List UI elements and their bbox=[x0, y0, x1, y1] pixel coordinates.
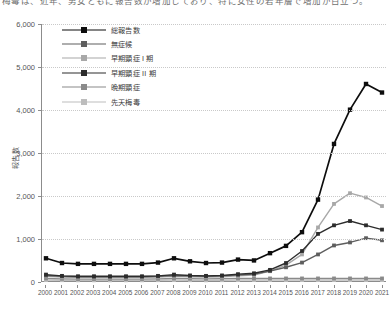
x-axis-tick-mark bbox=[61, 285, 62, 288]
x-axis-tick-label: 2002 bbox=[70, 289, 84, 296]
data-point-marker bbox=[316, 232, 320, 236]
data-point-marker bbox=[124, 274, 128, 278]
chart-legend: 総報告数無症候早期顕症 I 期早期顕症 II 期晩期顕症先天梅毒 bbox=[62, 23, 156, 108]
x-axis-tick-label: 2009 bbox=[182, 289, 196, 296]
y-axis-tick-label: 2,000 bbox=[16, 192, 35, 201]
data-point-marker bbox=[252, 258, 256, 262]
data-point-marker bbox=[268, 277, 272, 281]
data-point-marker bbox=[204, 261, 208, 265]
gridline bbox=[42, 196, 386, 197]
legend-swatch-icon bbox=[62, 68, 106, 78]
chart-screenshot: 梅毒は、近年、男女ともに報告数が増加しており、特に女性の若年層で増加が目立つ。 … bbox=[0, 0, 391, 316]
x-axis-tick-mark bbox=[205, 285, 206, 288]
legend-item-label: 無症候 bbox=[111, 39, 133, 49]
data-point-marker bbox=[252, 271, 256, 275]
data-point-marker bbox=[364, 277, 368, 281]
data-point-marker bbox=[348, 277, 352, 281]
series-2 bbox=[44, 191, 384, 279]
data-point-marker bbox=[364, 82, 368, 86]
data-point-marker bbox=[76, 274, 80, 278]
legend-item-label: 早期顕症 II 期 bbox=[111, 68, 156, 78]
data-point-marker bbox=[284, 244, 288, 248]
data-point-marker bbox=[300, 249, 304, 253]
data-point-marker bbox=[140, 262, 144, 266]
y-axis-tick-label: 6,000 bbox=[16, 20, 35, 29]
x-axis-tick-mark bbox=[382, 285, 383, 288]
data-point-marker bbox=[108, 262, 112, 266]
y-axis-tick-mark bbox=[38, 282, 41, 283]
legend-item-0[interactable]: 総報告数 bbox=[62, 23, 156, 36]
x-axis-tick-mark bbox=[77, 285, 78, 288]
x-axis-tick-mark bbox=[45, 285, 46, 288]
data-point-marker bbox=[332, 142, 336, 146]
data-point-marker bbox=[268, 251, 272, 255]
x-axis-tick-mark bbox=[109, 285, 110, 288]
legend-item-4[interactable]: 晩期顕症 bbox=[62, 81, 156, 94]
data-point-marker bbox=[44, 256, 48, 260]
legend-swatch-icon bbox=[62, 97, 106, 107]
x-axis-tick-label: 2018 bbox=[327, 289, 341, 296]
x-axis-tick-mark bbox=[286, 285, 287, 288]
x-axis-tick-mark bbox=[350, 285, 351, 288]
x-axis-tick-label: 2001 bbox=[54, 289, 68, 296]
legend-item-label: 先天梅毒 bbox=[111, 97, 140, 107]
data-point-marker bbox=[108, 274, 112, 278]
series-line bbox=[46, 221, 382, 276]
data-point-marker bbox=[316, 197, 320, 201]
series-line bbox=[46, 238, 382, 277]
data-point-marker bbox=[284, 261, 288, 265]
data-point-marker bbox=[44, 273, 48, 277]
x-axis-tick-label: 2012 bbox=[230, 289, 244, 296]
data-point-marker bbox=[316, 277, 320, 281]
data-point-marker bbox=[60, 274, 64, 278]
data-point-marker bbox=[172, 256, 176, 260]
legend-swatch-icon bbox=[62, 25, 106, 35]
x-axis-tick-mark bbox=[222, 285, 223, 288]
data-point-marker bbox=[316, 253, 320, 257]
x-axis-tick-mark bbox=[302, 285, 303, 288]
x-axis-tick-label: 2013 bbox=[247, 289, 261, 296]
series-line bbox=[46, 278, 382, 279]
data-point-marker bbox=[140, 274, 144, 278]
data-point-marker bbox=[300, 261, 304, 265]
data-point-marker bbox=[380, 204, 384, 208]
y-axis-tick-label: 1,000 bbox=[16, 235, 35, 244]
series-3 bbox=[44, 219, 384, 278]
data-point-marker bbox=[236, 257, 240, 261]
data-point-marker bbox=[188, 259, 192, 263]
legend-swatch-icon bbox=[62, 39, 106, 49]
y-axis-tick-label: 5,000 bbox=[16, 63, 35, 72]
x-axis-tick-label: 2000 bbox=[38, 289, 52, 296]
data-point-marker bbox=[156, 274, 160, 278]
x-axis-tick-label: 2006 bbox=[134, 289, 148, 296]
data-point-marker bbox=[76, 262, 80, 266]
x-axis-tick-label: 2015 bbox=[279, 289, 293, 296]
x-axis-tick-label: 2020 bbox=[359, 289, 373, 296]
data-point-marker bbox=[188, 274, 192, 278]
x-axis-tick-mark bbox=[93, 285, 94, 288]
x-axis-tick-label: 2003 bbox=[86, 289, 100, 296]
legend-item-2[interactable]: 早期顕症 I 期 bbox=[62, 52, 156, 65]
x-axis-tick-label: 2007 bbox=[150, 289, 164, 296]
gridline bbox=[42, 239, 386, 240]
series-1 bbox=[44, 236, 384, 278]
data-point-marker bbox=[332, 244, 336, 248]
data-point-marker bbox=[284, 265, 288, 269]
legend-swatch-icon bbox=[62, 53, 106, 63]
data-point-marker bbox=[236, 272, 240, 276]
x-axis-tick-label: 2010 bbox=[198, 289, 212, 296]
data-point-marker bbox=[332, 223, 336, 227]
data-point-marker bbox=[380, 228, 384, 232]
data-point-marker bbox=[380, 277, 384, 281]
x-axis-tick-label: 2019 bbox=[343, 289, 357, 296]
data-point-marker bbox=[268, 268, 272, 272]
legend-item-1[interactable]: 無症候 bbox=[62, 37, 156, 50]
legend-item-5[interactable]: 先天梅毒 bbox=[62, 95, 156, 108]
y-axis-title: 報告数 bbox=[10, 147, 20, 170]
data-point-marker bbox=[348, 241, 352, 245]
data-point-marker bbox=[204, 274, 208, 278]
legend-item-3[interactable]: 早期顕症 II 期 bbox=[62, 66, 156, 79]
data-point-marker bbox=[92, 262, 96, 266]
x-axis-tick-mark bbox=[125, 285, 126, 288]
legend-item-label: 総報告数 bbox=[111, 25, 140, 35]
